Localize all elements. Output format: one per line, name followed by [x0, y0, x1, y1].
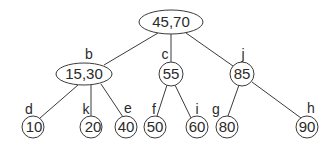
tree-diagram: 45,70 b 15,30 c 55 j 85 d 10 k 20 e 40 f… — [0, 0, 335, 147]
node-b-label: b — [85, 46, 93, 62]
node-d-value: 10 — [26, 118, 43, 135]
node-i-value: 60 — [189, 118, 206, 135]
node-e-value: 40 — [118, 118, 135, 135]
node-b: b 15,30 — [56, 46, 112, 85]
node-g-value: 80 — [219, 118, 236, 135]
node-j-label: j — [240, 46, 244, 62]
node-g: g 80 — [212, 101, 238, 138]
edge-j-g — [228, 85, 239, 116]
edge-c-i — [175, 85, 191, 118]
node-k-value: 20 — [85, 118, 102, 135]
node-f: f 50 — [144, 101, 166, 138]
node-j-value: 85 — [234, 65, 251, 82]
node-h: h 90 — [296, 100, 318, 138]
node-b-value: 15,30 — [65, 65, 103, 82]
edge-b-d — [40, 85, 78, 118]
node-e-label: e — [124, 100, 132, 116]
node-h-value: 90 — [299, 118, 316, 135]
edge-b-e — [101, 84, 123, 117]
node-f-value: 50 — [147, 118, 164, 135]
node-i-label: i — [195, 101, 198, 117]
edge-root-b — [104, 33, 158, 65]
edge-root-j — [186, 33, 233, 66]
edge-j-h — [252, 82, 301, 118]
node-d-label: d — [25, 101, 33, 117]
node-c-value: 55 — [163, 65, 180, 82]
node-k-label: k — [83, 101, 91, 117]
node-g-label: g — [212, 101, 220, 117]
node-d: d 10 — [22, 101, 44, 138]
node-j: j 85 — [230, 46, 254, 86]
node-root: 45,70 — [139, 10, 203, 34]
edge-c-f — [157, 85, 167, 116]
node-c-label: c — [162, 46, 169, 62]
node-e: e 40 — [115, 100, 137, 138]
node-i: i 60 — [186, 101, 208, 138]
node-h-label: h — [307, 100, 315, 116]
node-f-label: f — [152, 101, 156, 117]
node-root-value: 45,70 — [152, 13, 190, 30]
